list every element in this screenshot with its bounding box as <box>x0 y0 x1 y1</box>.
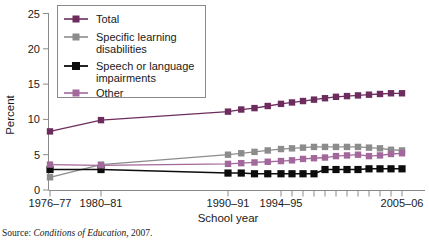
x-tick-label-2005-06: 2005–06 <box>381 197 424 209</box>
data-point <box>343 166 350 173</box>
data-point <box>366 153 372 159</box>
data-point <box>311 155 317 161</box>
legend: Total Specific learning disabilities Spe… <box>58 6 206 100</box>
data-point <box>399 150 405 156</box>
data-point <box>278 101 284 107</box>
data-point <box>238 160 244 166</box>
data-point <box>322 154 328 160</box>
data-point <box>355 152 361 158</box>
data-series-layer <box>46 90 405 180</box>
y-tick-label-15: 15 <box>28 78 40 90</box>
data-point <box>355 144 361 150</box>
data-point <box>278 158 284 164</box>
source-note: Source: Conditions of Education, 2007. <box>2 228 152 238</box>
x-axis-ticks <box>50 191 402 197</box>
data-point <box>98 117 104 123</box>
data-point <box>377 145 383 151</box>
data-point <box>344 144 350 150</box>
data-point <box>47 174 53 180</box>
source-label: Source: <box>2 228 31 238</box>
y-tick-label-0: 0 <box>34 184 40 196</box>
data-point <box>278 146 284 152</box>
y-axis-title: Percent <box>4 94 16 134</box>
data-point <box>238 106 244 112</box>
data-point <box>288 170 295 177</box>
data-point <box>299 170 306 177</box>
data-point <box>225 152 231 158</box>
data-point <box>238 169 245 176</box>
data-point <box>354 166 361 173</box>
x-axis-title: School year <box>198 212 259 224</box>
y-tick-label-25: 25 <box>28 8 40 20</box>
data-point <box>333 94 339 100</box>
x-tick-label-1990-91: 1990–91 <box>207 197 250 209</box>
data-point <box>377 152 383 158</box>
data-point <box>98 162 104 168</box>
x-tick-label-1976-77: 1976–77 <box>29 197 72 209</box>
data-point <box>265 103 271 109</box>
x-tick-label-1980-81: 1980–81 <box>80 197 123 209</box>
data-point <box>365 165 372 172</box>
data-point <box>322 95 328 101</box>
data-point <box>264 170 271 177</box>
legend-marker-specific-learning-disabilities <box>73 34 80 41</box>
data-point <box>251 159 257 165</box>
line-chart: 25 20 15 10 5 0 Percent 1976–77 1980–81 … <box>0 0 429 245</box>
data-point <box>311 144 317 150</box>
data-point <box>333 144 339 150</box>
data-point <box>265 159 271 165</box>
data-point <box>366 91 372 97</box>
data-point <box>322 144 328 150</box>
legend-label-specific-learning-disabilities-line1: Specific learning <box>96 31 177 43</box>
data-point <box>251 105 257 111</box>
legend-label-specific-learning-disabilities-line2: disabilities <box>96 43 147 55</box>
x-tick-label-1994-95: 1994–95 <box>260 197 303 209</box>
data-point <box>265 147 271 153</box>
data-point <box>224 169 231 176</box>
data-point <box>388 151 394 157</box>
data-point <box>47 161 53 167</box>
y-tick-label-5: 5 <box>34 149 40 161</box>
data-point <box>251 149 257 155</box>
data-point <box>344 152 350 158</box>
data-point <box>300 98 306 104</box>
data-point <box>300 156 306 162</box>
data-point <box>289 145 295 151</box>
data-point <box>225 108 231 114</box>
data-point <box>321 166 328 173</box>
source-year: 2007. <box>131 228 152 238</box>
data-point <box>377 91 383 97</box>
legend-marker-speech-or-language-impairments <box>72 62 80 70</box>
data-point <box>47 128 53 134</box>
data-point <box>311 96 317 102</box>
data-point <box>398 165 405 172</box>
legend-marker-other <box>73 90 80 97</box>
data-point <box>376 165 383 172</box>
data-point <box>300 144 306 150</box>
data-point <box>277 170 284 177</box>
data-point <box>387 165 394 172</box>
data-point <box>289 157 295 163</box>
figure-container: 25 20 15 10 5 0 Percent 1976–77 1980–81 … <box>0 0 429 245</box>
data-point <box>333 153 339 159</box>
y-tick-label-10: 10 <box>28 113 40 125</box>
y-tick-label-20: 20 <box>28 43 40 55</box>
data-point <box>251 170 258 177</box>
data-point <box>225 161 231 167</box>
data-point <box>332 166 339 173</box>
legend-label-speech-or-language-impairments-line1: Speech or language <box>96 60 194 72</box>
data-point <box>355 92 361 98</box>
data-point <box>238 150 244 156</box>
data-point <box>388 90 394 96</box>
legend-marker-total <box>73 16 80 23</box>
data-point <box>366 144 372 150</box>
legend-label-other: Other <box>96 87 124 99</box>
data-point <box>399 90 405 96</box>
data-point <box>310 170 317 177</box>
data-point <box>344 93 350 99</box>
source-title: Conditions of Education, <box>33 228 128 238</box>
legend-label-speech-or-language-impairments-line2: impairments <box>96 72 156 84</box>
legend-label-total: Total <box>96 13 119 25</box>
data-point <box>289 99 295 105</box>
